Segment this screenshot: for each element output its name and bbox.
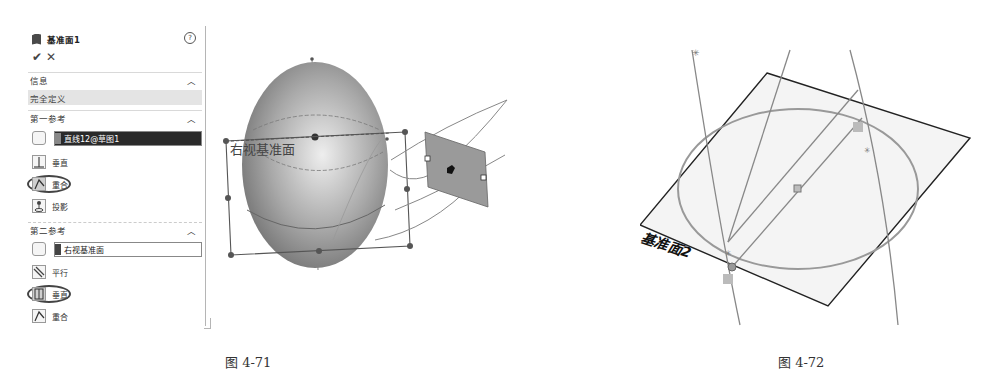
- section-title: 信息: [30, 74, 48, 86]
- first-reference-row: 直线12@草图1: [28, 130, 202, 146]
- relation-icon: [723, 274, 733, 284]
- help-icon[interactable]: ?: [184, 32, 196, 44]
- constraint-option-parallel[interactable]: 平行: [28, 264, 202, 280]
- panel-title: 基准面1: [47, 33, 80, 45]
- section-title: 第一参考: [30, 112, 66, 124]
- constraint-option-perpendicular[interactable]: 垂直: [28, 154, 202, 170]
- offset-plane: [425, 132, 488, 207]
- section-header-second-reference[interactable]: 第二参考 ︿: [28, 222, 202, 237]
- coincident-icon[interactable]: [32, 309, 46, 323]
- datum-plane-2: [640, 73, 970, 306]
- figure-caption: 图 4-72: [778, 352, 824, 371]
- axis-endpoint: [310, 57, 314, 61]
- color-swatch: [55, 133, 61, 144]
- plane-label: 右视基准面: [230, 142, 295, 157]
- plane-feature-icon: [32, 34, 41, 45]
- perpendicular-icon[interactable]: [32, 155, 46, 169]
- figure-4-71-viewport: 右视基准面: [215, 40, 515, 280]
- constraint-option-project[interactable]: 投影: [28, 198, 202, 214]
- midpoint-marker: [794, 185, 801, 192]
- collapse-caret-icon[interactable]: ︿: [187, 112, 196, 124]
- svg-text:✳: ✳: [725, 249, 732, 258]
- option-label: 投影: [52, 201, 68, 212]
- section-header-info[interactable]: 信息 ︿: [28, 72, 202, 87]
- reference-entity-icon: [32, 242, 46, 256]
- status-message: 完全定义: [28, 90, 202, 105]
- svg-text:✳: ✳: [864, 146, 871, 155]
- first-reference-selection-box[interactable]: 直线12@草图1: [54, 131, 202, 146]
- ok-button[interactable]: ✔: [32, 50, 42, 64]
- option-label: 重合: [52, 311, 68, 322]
- plane-property-manager: 基准面1 ? ✔ ✕ 信息 ︿ 完全定义 第一参考 ︿ 直线12@草图1 垂直 …: [28, 26, 206, 326]
- figure-4-72-viewport: ✳ ✳ ✳ 基准面2: [640, 30, 980, 330]
- option-label: 平行: [52, 267, 68, 278]
- project-icon[interactable]: [32, 199, 46, 213]
- option-label: 垂直: [52, 157, 68, 168]
- coincident-icon[interactable]: [32, 177, 46, 191]
- panel-resize-corner: [204, 318, 211, 329]
- collapse-caret-icon[interactable]: ︿: [187, 74, 196, 86]
- constraint-option-coincident[interactable]: 重合: [28, 176, 202, 192]
- parallel-icon[interactable]: [32, 265, 46, 279]
- confirm-row: ✔ ✕: [28, 50, 202, 64]
- svg-text:✳: ✳: [692, 48, 700, 58]
- constraint-option-perpendicular[interactable]: 垂直: [28, 286, 202, 302]
- color-swatch: [55, 244, 61, 255]
- status-text: 完全定义: [30, 92, 66, 104]
- relation-icon: [853, 122, 863, 132]
- selection-text: 右视基准面: [64, 244, 104, 255]
- constraint-option-coincident[interactable]: 重合: [28, 308, 202, 324]
- second-reference-row: 右视基准面: [28, 241, 202, 257]
- second-reference-selection-box[interactable]: 右视基准面: [54, 242, 202, 257]
- figure-caption: 图 4-71: [225, 352, 271, 371]
- section-header-first-reference[interactable]: 第一参考 ︿: [28, 110, 202, 125]
- collapse-caret-icon[interactable]: ︿: [187, 224, 196, 236]
- selection-text: 直线12@草图1: [64, 133, 119, 144]
- section-title: 第二参考: [30, 224, 66, 236]
- cancel-button[interactable]: ✕: [46, 50, 56, 64]
- perpendicular-icon[interactable]: [32, 287, 46, 301]
- panel-header: 基准面1 ?: [28, 32, 202, 46]
- reference-entity-icon: [32, 131, 46, 145]
